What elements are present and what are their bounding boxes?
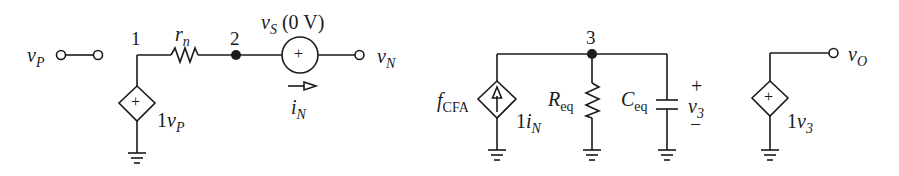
resistor-req bbox=[586, 83, 599, 118]
polarity-plus-right: + bbox=[764, 89, 773, 105]
current-arrow-in bbox=[288, 82, 316, 90]
label-node1: 1 bbox=[131, 29, 141, 48]
label-v3-minus: − bbox=[690, 114, 701, 134]
ground-mid2 bbox=[583, 150, 601, 160]
label-req: Req bbox=[548, 89, 573, 109]
output-terminal-vo bbox=[829, 49, 838, 58]
ground-right bbox=[761, 150, 779, 160]
wire-node1 bbox=[137, 55, 171, 86]
ground-mid1 bbox=[488, 150, 506, 160]
label-vp: vP bbox=[27, 45, 44, 65]
output-terminal-vn bbox=[355, 51, 364, 60]
label-fcfa: fCFA bbox=[437, 90, 469, 110]
resistor-rn bbox=[171, 48, 198, 62]
label-node2: 2 bbox=[230, 29, 240, 48]
current-arrow-up bbox=[493, 87, 502, 112]
node-dot-3 bbox=[587, 49, 597, 59]
input-terminal-vp bbox=[57, 51, 103, 60]
label-rn: rn bbox=[175, 24, 190, 44]
node-dot-2 bbox=[231, 50, 241, 60]
polarity-plus-vs: + bbox=[294, 46, 303, 62]
label-v3-plus: + bbox=[691, 76, 702, 96]
ground-left bbox=[128, 153, 146, 163]
label-vo: vO bbox=[848, 44, 867, 64]
label-gain-vp: 1vP bbox=[157, 110, 184, 130]
label-gain-v3: 1v3 bbox=[787, 111, 813, 131]
label-vn: vN bbox=[377, 46, 395, 66]
label-node3: 3 bbox=[586, 28, 596, 47]
label-ceq: Ceq bbox=[621, 89, 648, 109]
ground-mid3 bbox=[658, 150, 676, 160]
label-in: iN bbox=[291, 97, 306, 117]
polarity-plus-left: + bbox=[131, 94, 140, 110]
label-vs: vS (0 V) bbox=[261, 12, 324, 32]
label-gain-in: 1iN bbox=[516, 111, 541, 131]
